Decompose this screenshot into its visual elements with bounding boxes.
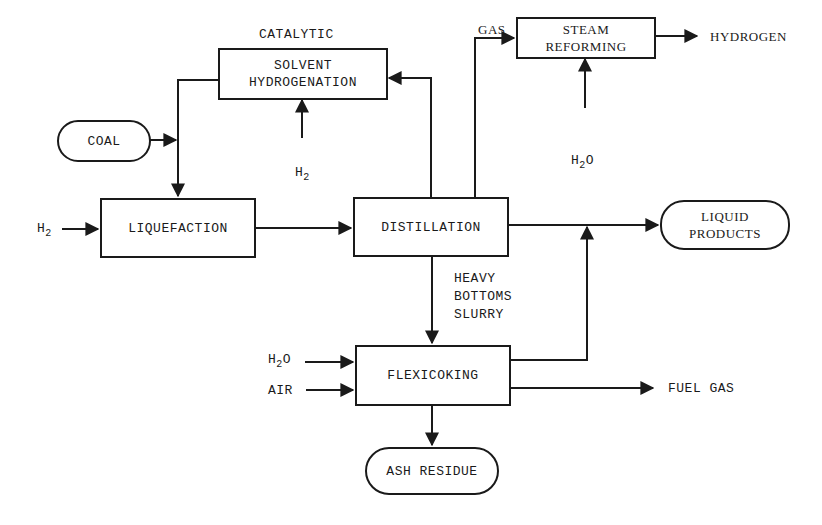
liquid-products-line2: PRODUCTS: [689, 225, 761, 242]
liquid-products-line1: LIQUID: [701, 208, 749, 225]
h2o-flexicoking-label: H2O: [268, 352, 291, 368]
flexicoking-box: FLEXICOKING: [355, 345, 511, 406]
liquefaction-label: LIQUEFACTION: [128, 220, 228, 237]
h2-sub: 2: [303, 172, 310, 183]
solvent-hydrogenation-line1: SOLVENT: [274, 57, 332, 74]
ash-residue-label: ASH RESIDUE: [386, 463, 477, 480]
air-label: AIR: [268, 383, 293, 399]
liquid-products-terminal: LIQUID PRODUCTS: [660, 200, 790, 250]
solvent-hydrogenation-box: SOLVENT HYDROGENATION: [218, 48, 388, 100]
edge-flexicoking-to-liquid: [510, 227, 587, 360]
distillation-box: DISTILLATION: [353, 197, 509, 257]
coal-terminal: COAL: [57, 120, 151, 162]
edge-distillation-to-steam: [475, 38, 514, 197]
h2-sub: 2: [45, 228, 52, 239]
steam-reforming-line2: REFORMING: [545, 38, 626, 55]
hydrogen-label: HYDROGEN: [710, 29, 787, 45]
heavy-line1: HEAVY: [454, 270, 512, 288]
liquefaction-box: LIQUEFACTION: [100, 198, 256, 258]
fuel-gas-label: FUEL GAS: [668, 381, 734, 397]
h2o-tail: O: [586, 153, 594, 168]
ash-residue-terminal: ASH RESIDUE: [365, 447, 499, 495]
gas-label: GAS: [478, 22, 506, 38]
steam-reforming-line1: STEAM: [563, 21, 610, 38]
distillation-label: DISTILLATION: [381, 219, 481, 236]
coal-label: COAL: [87, 133, 120, 150]
edge-distillation-to-solvent: [389, 78, 431, 197]
steam-reforming-box: STEAM REFORMING: [516, 17, 656, 59]
edge-solvent-to-liquefaction: [178, 80, 218, 196]
heavy-line3: SLURRY: [454, 306, 512, 324]
catalytic-caption: CATALYTIC: [259, 27, 334, 43]
h2o-steam-label: H2O: [571, 153, 594, 169]
heavy-line2: BOTTOMS: [454, 288, 512, 306]
h2-liquefaction-label: H2: [37, 221, 52, 237]
h2o-tail: O: [283, 352, 291, 367]
flexicoking-label: FLEXICOKING: [387, 367, 478, 384]
process-flow-diagram: CATALYTIC SOLVENT HYDROGENATION STEAM RE…: [0, 0, 822, 525]
h2-solvent-label: H2: [295, 165, 310, 181]
solvent-hydrogenation-line2: HYDROGENATION: [249, 74, 357, 91]
heavy-bottoms-label: HEAVY BOTTOMS SLURRY: [454, 270, 512, 324]
